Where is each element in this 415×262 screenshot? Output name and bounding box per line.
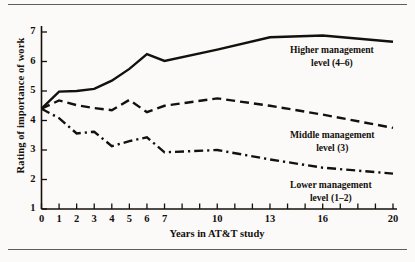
x-tick-label: 10: [206, 213, 228, 224]
series-line-dashed: [42, 98, 394, 128]
y-tick-label: 7: [20, 25, 36, 36]
x-tick-label: 20: [382, 213, 404, 224]
y-tick-label: 4: [20, 114, 36, 125]
x-tick-label: 7: [154, 213, 176, 224]
series-annotation-2: Middle managementlevel (3): [290, 129, 374, 154]
series-annotation-3: Lower managementlevel (1–2): [290, 179, 372, 204]
figure-container: Rating of importance of work Years in AT…: [0, 0, 415, 262]
series-annotation-line2: level (3): [290, 142, 374, 155]
series-annotation-line1: Higher management: [290, 44, 374, 55]
y-tick-label: 6: [20, 55, 36, 66]
series-annotation-line1: Middle management: [290, 129, 374, 140]
y-tick-label: 5: [20, 84, 36, 95]
y-tick-label: 1: [20, 202, 36, 213]
y-tick-label: 3: [20, 143, 36, 154]
x-tick-label: 16: [312, 213, 334, 224]
series-annotation-line2: level (1–2): [290, 192, 372, 205]
series-annotation-1: Higher managementlevel (4–6): [290, 44, 374, 69]
series-annotation-line1: Lower management: [290, 179, 372, 190]
x-tick-label: 13: [259, 213, 281, 224]
series-annotation-line2: level (4–6): [290, 57, 374, 70]
y-tick-label: 2: [20, 173, 36, 184]
